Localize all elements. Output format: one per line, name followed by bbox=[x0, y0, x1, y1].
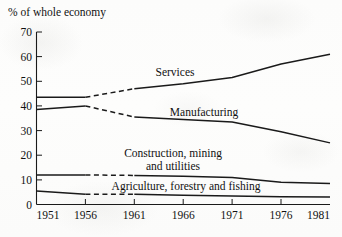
y-tick-label-30: 30 bbox=[21, 125, 33, 137]
y-tick-label-40: 40 bbox=[21, 100, 33, 112]
series-label-manufacturing: Manufacturing bbox=[170, 106, 239, 119]
series-line-agriculture-left bbox=[37, 191, 86, 194]
x-tick-label-1961: 1961 bbox=[123, 209, 146, 221]
y-axis-ticks bbox=[37, 32, 43, 180]
series-line-manufacturing-right bbox=[134, 117, 330, 143]
series-line-manufacturing-dashed bbox=[85, 106, 134, 117]
x-axis-ticks bbox=[85, 199, 281, 205]
y-tick-label-0: 0 bbox=[26, 199, 32, 211]
y-tick-label-60: 60 bbox=[21, 51, 33, 63]
x-tick-label-1971: 1971 bbox=[221, 209, 244, 221]
line-chart-plot: 70 60 50 40 30 20 10 0 1951 1956 1961 19… bbox=[0, 0, 342, 237]
series-line-agriculture-right bbox=[134, 194, 330, 197]
x-tick-label-1956: 1956 bbox=[74, 209, 97, 221]
series-label-services: Services bbox=[156, 66, 195, 78]
y-tick-label-20: 20 bbox=[21, 149, 33, 161]
x-tick-label-1966: 1966 bbox=[172, 209, 195, 221]
x-tick-label-1976: 1976 bbox=[270, 209, 293, 221]
y-tick-label-10: 10 bbox=[21, 174, 33, 186]
series-line-manufacturing-left bbox=[37, 106, 86, 110]
y-tick-label-70: 70 bbox=[21, 26, 33, 38]
series-line-services-dashed bbox=[85, 89, 134, 98]
series-label-construction-line1: Construction, mining bbox=[124, 147, 222, 160]
series-label-agriculture: Agriculture, forestry and fishing bbox=[112, 180, 261, 193]
series-label-construction-line2: and utilities bbox=[146, 160, 201, 172]
x-tick-label-1981: 1981 bbox=[307, 209, 330, 221]
chart-page: % of whole economy 70 60 50 40 30 20 10 … bbox=[0, 0, 342, 237]
y-tick-label-50: 50 bbox=[21, 75, 33, 87]
x-tick-label-1951: 1951 bbox=[37, 209, 60, 221]
